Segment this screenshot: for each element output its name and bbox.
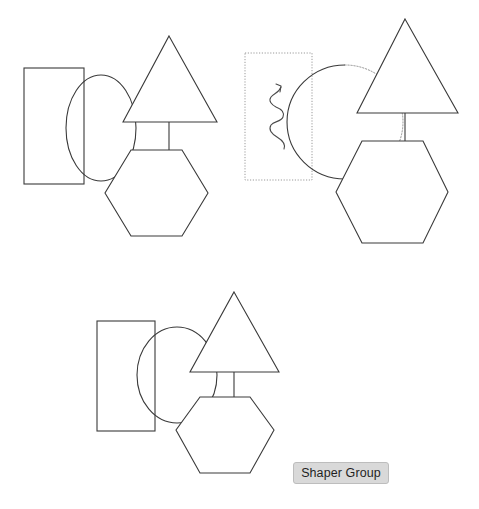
- shaper-group-label[interactable]: Shaper Group: [293, 462, 389, 484]
- rectangle-shape[interactable]: [97, 321, 155, 431]
- shape-group-outline[interactable]: [97, 292, 279, 473]
- shape-group-plain[interactable]: [24, 36, 217, 236]
- hexagon-shape[interactable]: [105, 150, 208, 236]
- hexagon-shape[interactable]: [176, 397, 274, 473]
- triangle-shape[interactable]: [123, 36, 217, 122]
- shape-group-selected[interactable]: [245, 19, 458, 243]
- rectangle-shape[interactable]: [24, 68, 84, 184]
- triangle-shape[interactable]: [357, 19, 458, 113]
- shapes-canvas[interactable]: [0, 0, 479, 509]
- triangle-shape[interactable]: [190, 292, 279, 372]
- shaper-group-label-text: Shaper Group: [301, 466, 381, 480]
- hexagon-shape[interactable]: [336, 141, 448, 243]
